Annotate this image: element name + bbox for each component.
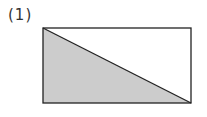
rectangle-diagram bbox=[0, 0, 207, 117]
